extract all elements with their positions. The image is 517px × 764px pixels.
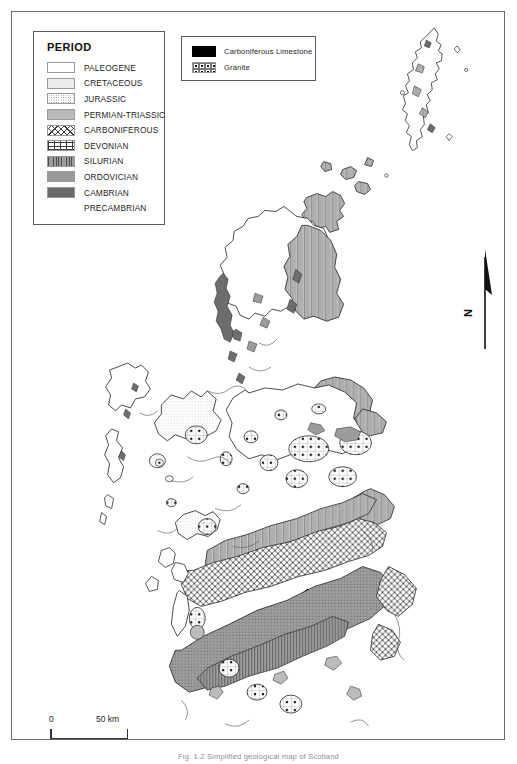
swatch-cambrian bbox=[47, 187, 75, 198]
legend-label-carboniferous: CARBONIFEROUS bbox=[84, 125, 158, 135]
legend-label-granite: Granite bbox=[224, 63, 250, 72]
swatch-silurian bbox=[47, 156, 75, 167]
legend-item-cretaceous[interactable]: CRETACEOUS bbox=[34, 76, 164, 92]
figure-frame: PERIOD PALEOGENE CRETACEOUS JURASSIC PER… bbox=[11, 11, 505, 740]
scale-bar-tick-start bbox=[50, 729, 52, 739]
area-grampian-highlands[interactable] bbox=[220, 384, 371, 494]
legend-label-paleogene: PALEOGENE bbox=[84, 63, 136, 73]
area-caithness[interactable] bbox=[284, 225, 344, 321]
legend-label-devonian: DEVONIAN bbox=[84, 141, 129, 151]
swatch-carboniferous-limestone bbox=[192, 46, 216, 57]
legend-label-ordovician: ORDOVICIAN bbox=[84, 172, 138, 182]
legend-item-permian-triassic[interactable]: PERMIAN-TRIASSIC bbox=[34, 107, 164, 123]
legend-label-cretaceous: CRETACEOUS bbox=[84, 78, 143, 88]
swatch-granite bbox=[192, 62, 216, 73]
legend-label-permian-triassic: PERMIAN-TRIASSIC bbox=[84, 110, 165, 120]
scale-bar-max-label: 50 km bbox=[96, 714, 119, 724]
north-arrow-label: N bbox=[462, 309, 474, 317]
legend-label-jurassic: JURASSIC bbox=[84, 94, 126, 104]
legend-item-carboniferous[interactable]: CARBONIFEROUS bbox=[34, 122, 164, 138]
legend-item-granite[interactable]: Granite bbox=[182, 59, 315, 75]
period-legend-title: PERIOD bbox=[47, 41, 164, 53]
area-shetland[interactable] bbox=[400, 28, 467, 151]
area-orkney[interactable] bbox=[301, 158, 388, 233]
swatch-ordovician bbox=[47, 171, 75, 182]
scale-bar: 0 50 km bbox=[50, 714, 142, 739]
legend-item-precambrian[interactable]: PRECAMBRIAN bbox=[34, 200, 164, 216]
period-legend[interactable]: PERIOD PALEOGENE CRETACEOUS JURASSIC PER… bbox=[33, 31, 165, 225]
legend-item-cambrian[interactable]: CAMBRIAN bbox=[34, 185, 164, 201]
north-arrow-svg bbox=[467, 249, 503, 349]
swatch-jurassic bbox=[47, 93, 75, 104]
legend-item-paleogene[interactable]: PALEOGENE bbox=[34, 60, 164, 76]
legend-item-ordovician[interactable]: ORDOVICIAN bbox=[34, 169, 164, 185]
swatch-permian-triassic bbox=[47, 109, 75, 120]
scale-bar-min-label: 0 bbox=[49, 714, 54, 724]
swatch-carboniferous bbox=[47, 125, 75, 136]
legend-label-silurian: SILURIAN bbox=[84, 156, 123, 166]
legend-label-cambrian: CAMBRIAN bbox=[84, 188, 129, 198]
swatch-cretaceous bbox=[47, 78, 75, 89]
unit-legend[interactable]: Carboniferous Limestone Granite bbox=[181, 36, 316, 81]
scale-bar-ticks bbox=[50, 728, 128, 739]
area-outer-hebrides[interactable] bbox=[100, 363, 151, 525]
scale-bar-line bbox=[50, 738, 128, 740]
figure-caption: Fig. 1.2 Simplified geological map of Sc… bbox=[0, 752, 517, 764]
legend-item-carboniferous-limestone[interactable]: Carboniferous Limestone bbox=[182, 43, 315, 59]
legend-item-jurassic[interactable]: JURASSIC bbox=[34, 91, 164, 107]
swatch-paleogene bbox=[47, 62, 75, 73]
scale-bar-tick-end bbox=[127, 729, 129, 739]
scale-bar-labels: 0 50 km bbox=[50, 714, 142, 726]
north-arrow bbox=[467, 249, 503, 349]
legend-label-carboniferous-limestone: Carboniferous Limestone bbox=[224, 47, 312, 56]
swatch-devonian bbox=[47, 140, 75, 151]
legend-item-silurian[interactable]: SILURIAN bbox=[34, 154, 164, 170]
legend-item-devonian[interactable]: DEVONIAN bbox=[34, 138, 164, 154]
swatch-precambrian bbox=[47, 203, 75, 214]
legend-label-precambrian: PRECAMBRIAN bbox=[84, 203, 147, 213]
